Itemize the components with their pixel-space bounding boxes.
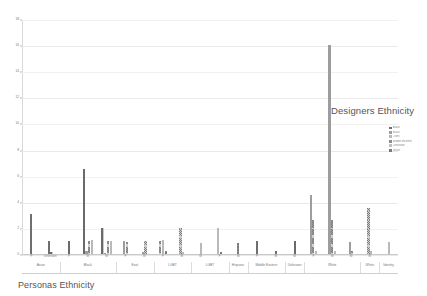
legend-label: Asian bbox=[393, 126, 400, 129]
legend-swatch bbox=[389, 131, 392, 134]
x-group-label: Identity bbox=[383, 264, 394, 267]
x-tick-label: F bbox=[68, 255, 70, 258]
legend-label: White bbox=[393, 149, 400, 152]
y-tick-label: 10 bbox=[15, 123, 19, 126]
x-group-label: Unknown bbox=[288, 264, 302, 267]
x-tick-label: M bbox=[275, 255, 278, 258]
bar bbox=[256, 241, 258, 254]
legend-swatch bbox=[389, 135, 392, 138]
bar bbox=[101, 228, 103, 254]
chart-title-personas: Personas Ethnicity bbox=[18, 280, 94, 290]
legend-item[interactable]: Middle Eastern bbox=[389, 139, 427, 143]
x-tick-label: F bbox=[218, 255, 220, 258]
y-tick-label: 8 bbox=[17, 149, 19, 152]
x-tick-label: M bbox=[181, 255, 184, 258]
legend-item[interactable]: Asian bbox=[389, 126, 427, 130]
y-tick-label: 18 bbox=[15, 18, 19, 21]
x-group-separator bbox=[229, 262, 230, 273]
y-tick-label: 4 bbox=[17, 201, 19, 204]
x-group-separator bbox=[304, 262, 305, 273]
y-tick-label: 12 bbox=[15, 97, 19, 100]
x-group-label: LGBT bbox=[168, 264, 177, 267]
bar bbox=[315, 251, 317, 254]
x-tick-label: F bbox=[30, 255, 32, 258]
x-group-separator bbox=[116, 262, 117, 273]
bar bbox=[217, 228, 219, 254]
bar bbox=[237, 243, 239, 254]
x-tick-label: M bbox=[331, 255, 334, 258]
x-tick-label: M bbox=[105, 255, 108, 258]
bar bbox=[294, 241, 296, 254]
legend-swatch bbox=[389, 149, 392, 152]
legend-label: Unknown bbox=[393, 144, 405, 147]
legend-swatch bbox=[389, 140, 392, 143]
bar bbox=[144, 241, 146, 254]
y-tick-label: 16 bbox=[15, 45, 19, 48]
bar bbox=[91, 240, 93, 254]
x-tick-label: F bbox=[256, 255, 258, 258]
y-tick-label: 2 bbox=[17, 227, 19, 230]
legend-swatch bbox=[389, 127, 392, 130]
x-tick-label: M bbox=[369, 255, 372, 258]
x-group-label: Hispanic bbox=[232, 264, 245, 267]
bar bbox=[334, 251, 336, 254]
x-tick-label: M bbox=[143, 255, 146, 258]
x-group-separator bbox=[191, 262, 192, 273]
x-tick-label: F bbox=[162, 255, 164, 258]
x-group-label: Asian bbox=[37, 264, 45, 267]
y-tick-label: 6 bbox=[17, 175, 19, 178]
x-group-label: Middle Eastern bbox=[255, 264, 277, 267]
x-tick-label: M bbox=[199, 255, 202, 258]
x-group-separator bbox=[154, 262, 155, 273]
x-tick-label: M bbox=[350, 255, 353, 258]
x-group-label: Black bbox=[84, 264, 92, 267]
x-group-label: White bbox=[328, 264, 336, 267]
bar bbox=[179, 228, 181, 254]
x-group-label: LGBT bbox=[206, 264, 215, 267]
legend-item[interactable]: White bbox=[389, 148, 427, 152]
bar bbox=[388, 242, 390, 254]
x-axis-band: FUnknownAsianFMMBlackFMEastFMLGBTMFLGBTM… bbox=[22, 255, 398, 274]
bar bbox=[68, 241, 70, 254]
bar bbox=[30, 214, 32, 254]
legend-swatch bbox=[389, 144, 392, 147]
bar bbox=[312, 220, 314, 254]
legend-label: Black bbox=[393, 131, 400, 134]
bar bbox=[200, 243, 202, 254]
x-tick-label: Unknown bbox=[44, 255, 57, 258]
legend-label: LGBT bbox=[393, 135, 401, 138]
x-group-separator bbox=[285, 262, 286, 273]
bar bbox=[126, 242, 128, 254]
bar bbox=[165, 251, 167, 254]
bar bbox=[83, 169, 85, 254]
chart-legend: AsianBlackLGBTMiddle EasternUnknownWhite bbox=[389, 126, 427, 153]
legend-label: Middle Eastern bbox=[393, 140, 412, 143]
bar bbox=[367, 208, 369, 254]
y-tick-label: 0 bbox=[17, 253, 19, 256]
x-group-label: East bbox=[131, 264, 138, 267]
legend-item[interactable]: Unknown bbox=[389, 144, 427, 148]
x-tick-label: F bbox=[312, 255, 314, 258]
x-tick-label: F bbox=[124, 255, 126, 258]
x-group-separator bbox=[360, 262, 361, 273]
bars-layer bbox=[22, 20, 398, 254]
x-tick-label: M bbox=[237, 255, 240, 258]
y-tick-label: 14 bbox=[15, 71, 19, 74]
x-group-label: White bbox=[366, 264, 374, 267]
chart-title-designers: Designers Ethnicity bbox=[331, 105, 414, 116]
x-group-separator bbox=[379, 262, 380, 273]
legend-item[interactable]: Black bbox=[389, 130, 427, 134]
x-group-separator bbox=[248, 262, 249, 273]
plot-area: 024681012141618 bbox=[22, 20, 398, 255]
x-group-separator bbox=[60, 262, 61, 273]
bar bbox=[110, 241, 112, 254]
bar bbox=[331, 220, 333, 254]
x-tick-label: M bbox=[293, 255, 296, 258]
x-tick-label: M bbox=[87, 255, 90, 258]
chart-root: 024681012141618 FUnknownAsianFMMBlackFME… bbox=[0, 0, 427, 296]
legend-item[interactable]: LGBT bbox=[389, 135, 427, 139]
